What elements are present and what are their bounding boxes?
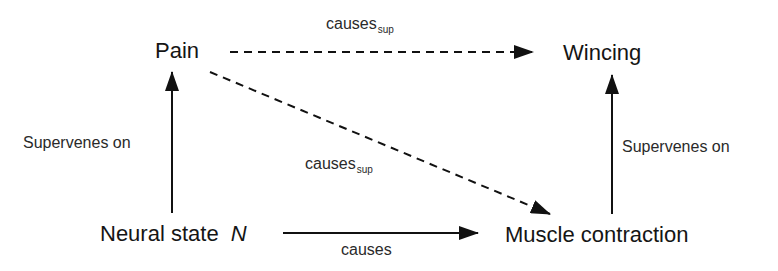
node-pain: Pain <box>155 40 199 62</box>
label-pain-wincing: causessup <box>326 16 394 32</box>
label-neural-muscle: causes <box>341 242 392 258</box>
label-sub: sup <box>357 164 373 175</box>
neural-state-text: Neural state <box>100 221 219 246</box>
label-muscle-wincing: Supervenes on <box>622 139 730 155</box>
edge-pain-muscle <box>210 72 550 214</box>
label-pain-muscle: causessup <box>305 156 373 172</box>
node-wincing: Wincing <box>563 42 641 64</box>
label-causes: causes <box>326 15 377 32</box>
label-sub: sup <box>378 24 394 35</box>
neural-state-variable: N <box>231 221 247 246</box>
label-causes: causes <box>305 155 356 172</box>
node-neural-state: Neural state N <box>100 223 247 245</box>
node-muscle-contraction: Muscle contraction <box>505 224 688 246</box>
label-neural-pain: Supervenes on <box>23 135 131 151</box>
